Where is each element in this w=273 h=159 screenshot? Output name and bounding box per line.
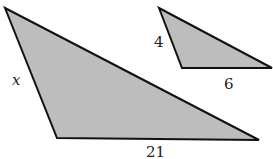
large-triangle-base-label: 21 [146, 143, 165, 159]
similar-triangles-diagram: x 21 4 6 [0, 0, 273, 159]
large-triangle-side-x-label: x [12, 71, 21, 89]
small-triangle [159, 8, 272, 68]
small-triangle-base-label: 6 [224, 75, 234, 93]
small-triangle-side-label: 4 [154, 33, 164, 51]
large-triangle [5, 8, 259, 140]
